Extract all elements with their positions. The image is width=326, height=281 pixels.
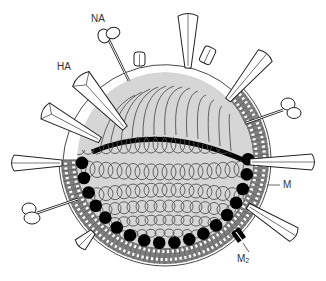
label-na: NA <box>91 14 105 24</box>
label-m: M <box>283 180 291 190</box>
label-m2-subscript: 2 <box>245 257 249 264</box>
ha-spike <box>12 155 63 171</box>
influenza-virion-diagram <box>0 0 326 281</box>
label-ha: HA <box>57 62 71 72</box>
ha-spike <box>178 14 198 69</box>
na-spike-labeled <box>96 25 129 81</box>
label-m2: M2 <box>237 254 249 264</box>
short-spike-stubs <box>134 45 217 66</box>
na-spike <box>22 199 78 224</box>
